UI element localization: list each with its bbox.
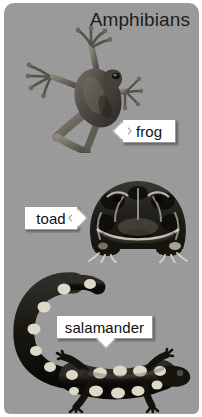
amphibians-card: Amphibians: [4, 3, 199, 414]
callout-frog-label: frog: [136, 124, 162, 139]
callout-toad[interactable]: toad: [24, 206, 78, 230]
toad-photo: [83, 175, 193, 263]
callout-toad-label: toad: [36, 211, 66, 226]
callout-salamander[interactable]: salamander: [56, 315, 153, 339]
callout-pointer-mask: [123, 121, 128, 142]
callout-salamander-label: salamander: [65, 320, 144, 335]
page-title: Amphibians: [90, 9, 190, 31]
callout-frog[interactable]: frog: [122, 119, 176, 143]
callout-pointer-mask: [72, 208, 77, 229]
